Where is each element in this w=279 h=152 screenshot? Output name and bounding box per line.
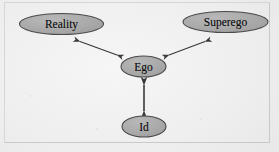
connector-superego-ego: [169, 42, 205, 56]
connector-reality-ego: [80, 42, 117, 56]
node-shape-reality[interactable]: [20, 14, 104, 35]
node-shape-ego[interactable]: [121, 56, 166, 77]
diagram-graphics-layer: [0, 0, 279, 152]
node-shape-superego[interactable]: [183, 12, 268, 33]
diagram-canvas: Reality Superego Ego Id: [0, 0, 279, 152]
node-shape-id[interactable]: [122, 116, 166, 137]
